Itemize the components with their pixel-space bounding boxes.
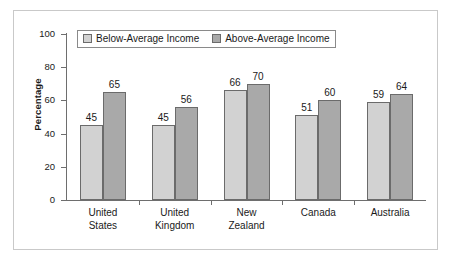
y-axis-tick-label: 60: [21, 94, 55, 105]
legend-label: Below-Average Income: [96, 33, 199, 44]
chart-figure: Percentage 020406080100 4565455666705160…: [13, 10, 438, 250]
y-axis-tick-label: 20: [21, 161, 55, 172]
legend-entry-below-average: Below-Average Income: [83, 33, 199, 44]
y-axis-tick: [61, 34, 67, 35]
y-axis-tick: [61, 200, 67, 201]
bar-above-average: [247, 84, 270, 200]
legend-swatch-icon: [83, 34, 92, 43]
y-axis-tick: [61, 100, 67, 101]
bar-below-average: [224, 90, 247, 200]
bar-below-average: [295, 115, 318, 200]
chart-legend: Below-Average Income Above-Average Incom…: [77, 30, 336, 48]
y-axis-tick: [61, 134, 67, 135]
legend-label: Above-Average Income: [225, 33, 329, 44]
y-axis-tick-label: 40: [21, 128, 55, 139]
x-axis-tick: [139, 200, 140, 205]
category-label-line: Zealand: [202, 220, 292, 233]
category-label: Australia: [345, 207, 435, 220]
legend-entry-above-average: Above-Average Income: [212, 33, 329, 44]
bar-above-average: [175, 107, 198, 200]
y-axis-tick-label: 100: [21, 28, 55, 39]
bar-below-average: [367, 102, 390, 200]
bar-value-label: 56: [166, 94, 206, 105]
bar-above-average: [390, 94, 413, 200]
bar-above-average: [318, 100, 341, 200]
x-axis-line: [66, 200, 426, 201]
x-axis-tick: [354, 200, 355, 205]
y-axis-tick-label: 80: [21, 61, 55, 72]
category-label-line: Australia: [345, 207, 435, 220]
bar-below-average: [80, 125, 103, 200]
y-axis-tick: [61, 67, 67, 68]
bar-above-average: [103, 92, 126, 200]
bar-value-label: 65: [94, 79, 134, 90]
y-axis-tick-label: 0: [21, 194, 55, 205]
bar-value-label: 70: [238, 71, 278, 82]
legend-swatch-icon: [212, 34, 221, 43]
y-axis-line: [66, 33, 67, 201]
x-axis-tick: [211, 200, 212, 205]
y-axis-tick: [61, 167, 67, 168]
x-axis-tick: [282, 200, 283, 205]
bar-value-label: 60: [310, 87, 350, 98]
bar-below-average: [152, 125, 175, 200]
bar-value-label: 64: [382, 81, 422, 92]
